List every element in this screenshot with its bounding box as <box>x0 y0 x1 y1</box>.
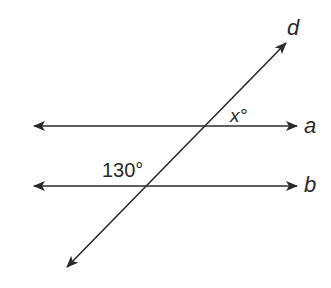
line-d-label: d <box>287 17 299 39</box>
parallel-lines-diagram <box>0 0 331 288</box>
transversal-d <box>67 43 286 267</box>
line-b-label: b <box>304 174 316 196</box>
line-a-label: a <box>304 115 316 137</box>
angle-x-label: x° <box>230 106 247 125</box>
angle-130-label: 130° <box>102 160 143 180</box>
